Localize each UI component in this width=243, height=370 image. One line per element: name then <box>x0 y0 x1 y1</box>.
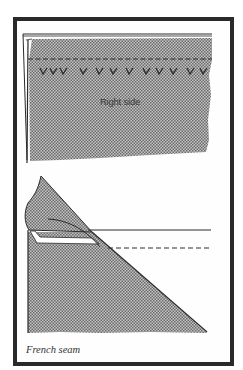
folded-fabric-corner <box>25 176 92 232</box>
right-side-label: Right side <box>88 96 152 107</box>
french-seam-diagram <box>0 0 243 370</box>
figure-caption: French seam <box>26 344 80 355</box>
bottom-panel <box>25 176 211 333</box>
fabric-base-shaded <box>28 232 207 333</box>
